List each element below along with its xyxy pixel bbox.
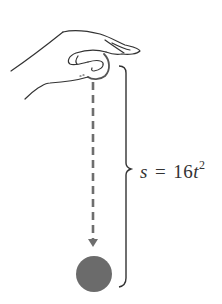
arrow-down-icon xyxy=(88,239,98,247)
equation-lhs: s xyxy=(140,161,148,182)
equation-exponent: 2 xyxy=(199,158,206,172)
fall-path xyxy=(88,82,98,247)
ball xyxy=(76,256,112,292)
free-fall-diagram xyxy=(0,0,222,304)
distance-brace xyxy=(119,66,131,287)
distance-equation: s=16t2 xyxy=(140,160,205,183)
equation-equals: = xyxy=(155,161,166,182)
hand-icon xyxy=(11,31,140,99)
equation-coefficient: 16 xyxy=(173,161,193,182)
